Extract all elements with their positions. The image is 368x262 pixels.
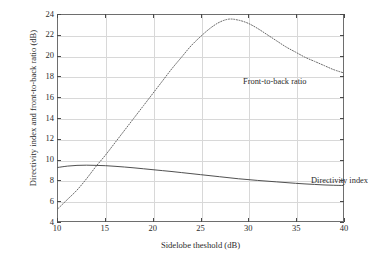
y-tick-mark-right (340, 160, 344, 161)
x-tick-mark (153, 218, 154, 222)
y-tick-label: 8 (50, 176, 54, 185)
x-tick-mark (105, 218, 106, 222)
x-tick-mark (248, 218, 249, 222)
y-tick-mark (57, 118, 61, 119)
x-tick-mark-top (57, 14, 58, 18)
y-tick-mark-right (340, 97, 344, 98)
y-tick-mark (57, 139, 61, 140)
y-tick-mark-right (340, 76, 344, 77)
y-axis-title: Directivity index and front-to-back rati… (28, 0, 38, 218)
y-tick-mark (57, 180, 61, 181)
series-curves (58, 15, 343, 221)
x-tick-mark (201, 218, 202, 222)
annotation-front-to-back-ratio: Front-to-back ratio (243, 77, 307, 87)
y-tick-mark (57, 160, 61, 161)
y-tick-mark-right (340, 180, 344, 181)
y-tick-label: 16 (46, 93, 55, 102)
x-tick-mark-top (344, 14, 345, 18)
y-tick-label: 20 (46, 51, 55, 60)
series-line-front-to-back-ratio (58, 19, 343, 209)
y-tick-mark-right (340, 139, 344, 140)
x-tick-mark (296, 218, 297, 222)
x-tick-label: 20 (148, 224, 157, 233)
y-tick-mark-right (340, 56, 344, 57)
x-tick-mark (344, 218, 345, 222)
y-tick-mark (57, 97, 61, 98)
x-tick-mark-top (296, 14, 297, 18)
x-tick-label: 35 (292, 224, 301, 233)
y-tick-label: 18 (46, 72, 55, 81)
x-tick-mark-top (201, 14, 202, 18)
series-line-directivity-index (58, 165, 343, 185)
x-tick-label: 25 (196, 224, 205, 233)
y-tick-mark (57, 76, 61, 77)
x-tick-mark-top (105, 14, 106, 18)
x-axis-title: Sidelobe theshold (dB) (57, 240, 344, 250)
y-tick-label: 14 (46, 114, 55, 123)
y-tick-label: 22 (46, 30, 55, 39)
y-tick-label: 6 (50, 197, 54, 206)
x-tick-label: 15 (101, 224, 110, 233)
x-tick-mark-top (153, 14, 154, 18)
y-tick-label: 12 (46, 134, 55, 143)
x-tick-label: 40 (340, 224, 349, 233)
x-tick-mark (57, 218, 58, 222)
y-tick-mark-right (340, 35, 344, 36)
y-tick-mark-right (340, 118, 344, 119)
y-tick-mark (57, 56, 61, 57)
x-tick-label: 30 (244, 224, 253, 233)
x-tick-mark-top (248, 14, 249, 18)
y-tick-label: 24 (46, 10, 55, 19)
x-tick-label: 10 (53, 224, 62, 233)
y-tick-mark (57, 201, 61, 202)
y-tick-mark (57, 35, 61, 36)
plot-area: Front-to-back ratio Directivity index (57, 14, 344, 222)
y-tick-label: 10 (46, 155, 55, 164)
y-tick-mark-right (340, 201, 344, 202)
